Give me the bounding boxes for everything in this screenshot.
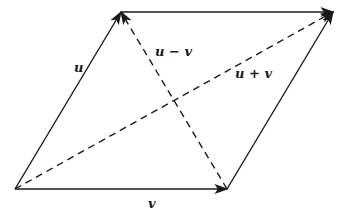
label-u-minus-v: u − v (155, 44, 192, 59)
vector-u-translated-arrow (227, 12, 333, 189)
label-u-plus-v: u + v (235, 66, 272, 81)
vector-u-plus-v-arrow (15, 12, 333, 189)
vector-u-arrow (15, 12, 121, 189)
label-u: u (74, 60, 83, 75)
vector-parallelogram-diagram: u v u − v u + v (0, 0, 342, 218)
label-v: v (148, 196, 156, 211)
